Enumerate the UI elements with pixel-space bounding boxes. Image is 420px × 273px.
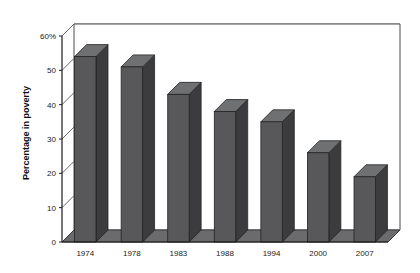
- bar-front-face: [75, 57, 96, 242]
- bar: [261, 110, 294, 242]
- x-tick-label: 1988: [216, 249, 234, 258]
- y-tick-label: 40: [47, 101, 56, 110]
- x-tick-labels: 1974197819831988199420002007: [76, 249, 374, 258]
- axis-depth-connector: [62, 161, 74, 173]
- x-tick-label: 1994: [263, 249, 281, 258]
- bar-front-face: [354, 177, 375, 242]
- bar-side-face: [329, 141, 341, 242]
- bar-side-face: [375, 165, 387, 242]
- bar-chart: 0102030405060% 1974197819831988199420002…: [0, 0, 420, 273]
- bar-front-face: [261, 122, 282, 242]
- x-tick-label: 1978: [123, 249, 141, 258]
- y-tick-label: 10: [47, 204, 56, 213]
- bar-front-face: [214, 112, 235, 242]
- axis-depth-connector: [62, 58, 74, 70]
- axis-depth-connector: [62, 93, 74, 105]
- bar-side-face: [282, 110, 294, 242]
- y-tick-label: 50: [47, 66, 56, 75]
- y-tick-labels: 0102030405060%: [40, 32, 57, 247]
- axis-depth-connector: [62, 127, 74, 139]
- bar-front-face: [121, 67, 142, 242]
- x-tick-label: 2000: [309, 249, 327, 258]
- y-tick-label: 0: [52, 238, 57, 247]
- x-tick-label: 2007: [356, 249, 374, 258]
- bar: [75, 45, 108, 242]
- y-axis-title: Percentage in poverty: [21, 86, 31, 180]
- y-tick-label: 20: [47, 169, 56, 178]
- bar-side-face: [189, 82, 201, 242]
- bar-front-face: [168, 94, 189, 242]
- y-tick-label: 60%: [40, 32, 56, 41]
- bar-front-face: [307, 153, 328, 242]
- bar: [307, 141, 340, 242]
- axis-depth-connector: [62, 24, 74, 36]
- bar-side-face: [236, 100, 248, 242]
- bar-side-face: [143, 55, 155, 242]
- bar: [121, 55, 154, 242]
- y-tick-label: 30: [47, 135, 56, 144]
- bar: [354, 165, 387, 242]
- bar-side-face: [96, 45, 108, 242]
- bar: [168, 82, 201, 242]
- chart-canvas: 0102030405060% 1974197819831988199420002…: [0, 0, 420, 273]
- axis-depth-connector: [62, 196, 74, 208]
- x-tick-label: 1983: [170, 249, 188, 258]
- x-tick-label: 1974: [76, 249, 94, 258]
- bar: [214, 100, 247, 242]
